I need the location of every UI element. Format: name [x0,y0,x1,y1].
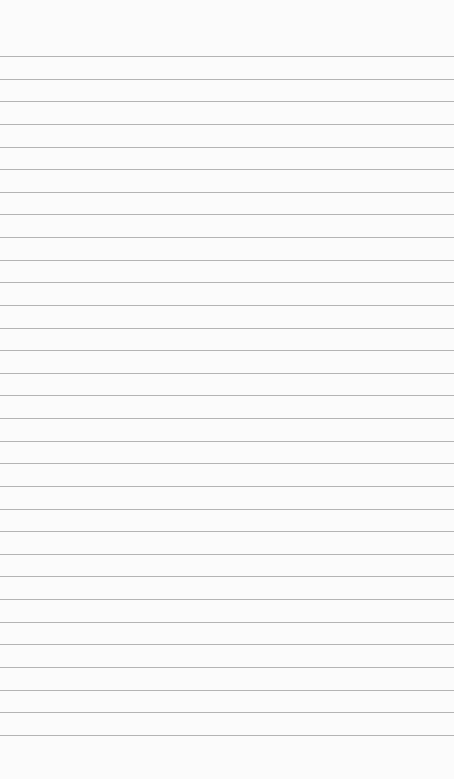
ruled-line [0,56,454,57]
ruled-line [0,373,454,374]
ruled-line [0,441,454,442]
ruled-line [0,486,454,487]
ruled-line [0,712,454,713]
ruled-line [0,328,454,329]
ruled-line [0,509,454,510]
ruled-line [0,260,454,261]
ruled-line [0,554,454,555]
ruled-line [0,305,454,306]
ruled-line [0,418,454,419]
lined-paper-sheet [0,0,454,779]
ruled-line [0,282,454,283]
ruled-line [0,147,454,148]
ruled-line [0,667,454,668]
ruled-line [0,169,454,170]
ruled-line [0,192,454,193]
ruled-line [0,531,454,532]
ruled-line [0,644,454,645]
ruled-line [0,735,454,736]
ruled-line [0,79,454,80]
ruled-line [0,622,454,623]
ruled-line [0,690,454,691]
ruled-line [0,463,454,464]
ruled-line [0,576,454,577]
ruled-line [0,237,454,238]
ruled-line [0,214,454,215]
ruled-line [0,101,454,102]
ruled-line [0,599,454,600]
ruled-line [0,350,454,351]
ruled-line [0,395,454,396]
ruled-line [0,124,454,125]
